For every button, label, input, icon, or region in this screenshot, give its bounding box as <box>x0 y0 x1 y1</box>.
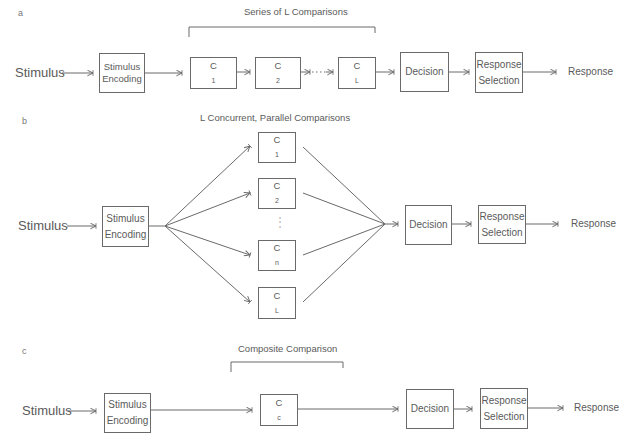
comparison-subscript: 2 <box>275 197 279 204</box>
panel-b-stimulus-label: Stimulus <box>18 218 68 233</box>
comparison-subscript: 1 <box>275 151 279 158</box>
panel-a-label: a <box>18 8 23 18</box>
comparison-subscript: L <box>275 307 279 314</box>
panel-b-title: L Concurrent, Parallel Comparisons <box>200 112 350 123</box>
panel-c-stimulus-encoding-box: StimulusEncoding <box>104 393 151 433</box>
panel-b-stimulus-encoding-box: StimulusEncoding <box>102 206 149 247</box>
decision-label: Decision <box>411 401 449 417</box>
panel-a-title: Series of L Comparisons <box>244 6 348 17</box>
panel-a-stimulus-label: Stimulus <box>15 65 65 80</box>
encoding-line1: Stimulus <box>107 397 149 413</box>
response-selection-line1: Response <box>476 57 521 73</box>
comparison-symbol: C <box>274 134 281 146</box>
panel-b-comparison-c1-box: C1 <box>258 132 296 163</box>
response-selection-line1: Response <box>479 209 524 225</box>
decision-label: Decision <box>409 217 447 233</box>
panel-a-response-label: Response <box>568 66 613 77</box>
comparison-symbol: C <box>274 290 281 302</box>
panel-b-comparison-c2-box: C2 <box>258 178 296 209</box>
panel-a-comparison-c1-box: C1 <box>190 57 237 89</box>
response-selection-line1: Response <box>481 393 526 409</box>
response-selection-line2: Selection <box>481 409 526 425</box>
panel-a-comparison-c2-box: C2 <box>255 57 301 89</box>
comparison-subscript: 2 <box>276 77 280 84</box>
panel-c-composite-comparison-box: Cc <box>260 394 298 426</box>
panel-a-response-selection-box: ResponseSelection <box>475 52 523 93</box>
panel-b-comparison-cn-box: Cn <box>258 240 296 271</box>
comparison-symbol: C <box>354 60 361 72</box>
panel-c-stimulus-label: Stimulus <box>22 403 72 418</box>
comparison-symbol: C <box>274 180 281 192</box>
comparison-subscript: L <box>355 77 359 84</box>
comparison-subscript: n <box>275 259 279 266</box>
panel-b-label: b <box>22 116 27 126</box>
panel-b-comparison-cl-box: CL <box>258 287 296 319</box>
encoding-line2: Encoding <box>107 413 149 429</box>
comparison-symbol: C <box>276 397 283 409</box>
panel-b-vertical-ellipsis: ⋮ <box>274 215 286 229</box>
panel-b-response-selection-box: ResponseSelection <box>478 205 526 244</box>
panel-b-response-label: Response <box>571 218 616 229</box>
panel-c-response-selection-box: ResponseSelection <box>480 388 528 429</box>
comparison-symbol: C <box>274 242 281 254</box>
comparison-symbol: C <box>210 60 217 72</box>
panel-b-decision-box: Decision <box>405 205 452 245</box>
panel-c-response-label: Response <box>574 402 619 413</box>
response-selection-line2: Selection <box>479 225 524 241</box>
response-selection-line2: Selection <box>476 73 521 89</box>
comparison-symbol: C <box>275 60 282 72</box>
encoding-line2: Encoding <box>105 227 147 243</box>
comparison-subscript: c <box>277 414 281 421</box>
connector-layer <box>0 0 627 443</box>
panel-a-decision-box: Decision <box>400 52 449 92</box>
decision-label: Decision <box>405 64 443 80</box>
comparison-subscript: 1 <box>212 77 216 84</box>
panel-c-label: c <box>22 346 27 356</box>
panel-c-decision-box: Decision <box>406 389 454 429</box>
panel-a-stimulus-encoding-box: StimulusEncoding <box>99 53 145 93</box>
panel-c-title: Composite Comparison <box>238 343 337 354</box>
panel-a-comparison-cl-box: CL <box>338 57 376 89</box>
encoding-line2: Encoding <box>102 73 142 85</box>
encoding-line1: Stimulus <box>102 61 142 73</box>
encoding-line1: Stimulus <box>105 211 147 227</box>
